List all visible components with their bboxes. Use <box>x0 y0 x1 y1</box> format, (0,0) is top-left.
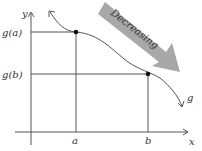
tick-b: b <box>145 135 151 146</box>
decreasing-function-diagram: Decreasing y x g(a) g(b) a b g <box>0 0 202 151</box>
arrow-label: Decreasing <box>108 6 161 51</box>
guide-lines <box>31 32 148 132</box>
tick-gb: g(b) <box>2 69 23 80</box>
tick-ga: g(a) <box>2 27 22 38</box>
x-axis-label: x <box>189 136 195 147</box>
decreasing-arrow: Decreasing <box>98 2 180 72</box>
point-b <box>146 72 151 77</box>
point-a <box>74 30 79 35</box>
curve-label: g <box>187 92 193 103</box>
curve-start-arrowhead <box>49 11 55 17</box>
tick-a: a <box>72 135 78 146</box>
y-axis-label: y <box>21 8 28 19</box>
